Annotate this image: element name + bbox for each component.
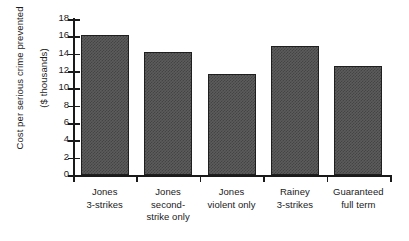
y-axis-tick-mark (68, 88, 80, 90)
x-axis-tick-mark (200, 175, 202, 182)
x-axis-tick-mark (390, 175, 392, 182)
x-axis-category-label: Guaranteedfull term (324, 186, 393, 211)
x-axis-category-label-line: Jones (70, 186, 139, 199)
bar (144, 52, 192, 175)
y-axis-tick-mark (68, 123, 80, 125)
y-axis-title-line-1: Cost per serious crime prevented (14, 0, 26, 158)
y-axis-tick-mark (68, 36, 80, 38)
y-axis-tick-mark (68, 54, 80, 56)
y-axis-tick-label: 16 (49, 29, 69, 41)
y-axis-tick-mark (68, 140, 80, 142)
x-axis-category-label: Rainey3-strikes (260, 186, 329, 211)
bar (334, 66, 382, 175)
bar (208, 74, 256, 175)
x-axis-line (73, 175, 390, 177)
x-axis-category-label-line: Rainey (260, 186, 329, 199)
y-axis-tick-mark (68, 106, 80, 108)
y-axis-tick-label: 0 (49, 168, 69, 180)
y-axis-tick-label: 4 (49, 133, 69, 145)
x-axis-category-label-line: 3-strikes (260, 199, 329, 212)
x-axis-tick-mark (73, 175, 75, 182)
y-axis-tick-mark (68, 71, 80, 73)
x-axis-category-label-line: second- (133, 199, 202, 212)
y-axis-tick-label: 12 (49, 64, 69, 76)
bar (81, 35, 129, 175)
x-axis-tick-mark (263, 175, 265, 182)
y-axis-tick-label: 8 (49, 99, 69, 111)
x-axis-tick-mark (136, 175, 138, 182)
y-axis-tick-label: 14 (49, 47, 69, 59)
plot-area: 024681012141618 (73, 18, 390, 177)
y-axis-tick-mark (68, 158, 80, 160)
y-axis-tick-label: 2 (49, 151, 69, 163)
x-axis-category-label: Jonessecond-strike only (133, 186, 202, 224)
y-axis-tick-mark (68, 19, 80, 21)
y-axis-tick-label: 18 (49, 12, 69, 24)
bar-chart: Cost per serious crime prevented ($ thou… (0, 0, 409, 241)
x-axis-category-label-line: Jones (133, 186, 202, 199)
x-axis-category-label-line: violent only (197, 199, 266, 212)
y-axis-tick-label: 6 (49, 116, 69, 128)
x-axis-category-label-line: strike only (133, 211, 202, 224)
x-axis-category-label-line: Guaranteed (324, 186, 393, 199)
y-axis-tick-label: 10 (49, 81, 69, 93)
x-axis-category-label-line: full term (324, 199, 393, 212)
x-axis-category-label-line: Jones (197, 186, 266, 199)
x-axis-category-label-line: 3-strikes (70, 199, 139, 212)
y-axis-line (73, 18, 75, 177)
x-axis-category-label: Jones3-strikes (70, 186, 139, 211)
x-axis-category-labels: Jones3-strikesJonessecond-strike onlyJon… (73, 186, 390, 241)
x-axis-category-label: Jonesviolent only (197, 186, 266, 211)
x-axis-tick-mark (327, 175, 329, 182)
bar (271, 46, 319, 175)
